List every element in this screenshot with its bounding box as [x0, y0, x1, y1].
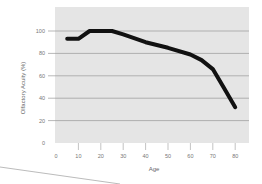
page-edge-line [0, 167, 120, 184]
x-tick-label: 60 [187, 153, 193, 159]
y-axis-ticks: 020406080100 [36, 28, 45, 146]
y-axis-title: Olfactory Acuity (%) [20, 62, 26, 115]
y-tick-label: 60 [39, 73, 45, 79]
x-tick-label: 40 [143, 153, 149, 159]
x-tick-label: 80 [232, 153, 238, 159]
x-axis-ticks: 01020304050607080 [54, 143, 238, 159]
y-tick-label: 20 [39, 118, 45, 124]
y-tick-label: 40 [39, 95, 45, 101]
x-tick-label: 10 [75, 153, 81, 159]
y-tick-label: 100 [36, 28, 45, 34]
plot-background [55, 7, 249, 143]
x-tick-label: 70 [210, 153, 216, 159]
x-tick-label: 0 [54, 153, 57, 159]
x-axis-title: Age [149, 166, 160, 172]
x-tick-label: 30 [120, 153, 126, 159]
y-tick-label: 80 [39, 50, 45, 56]
x-tick-label: 50 [165, 153, 171, 159]
x-tick-label: 20 [98, 153, 104, 159]
chart: 020406080100 01020304050607080 Age Olfac… [0, 0, 262, 184]
y-tick-label: 0 [42, 140, 45, 146]
